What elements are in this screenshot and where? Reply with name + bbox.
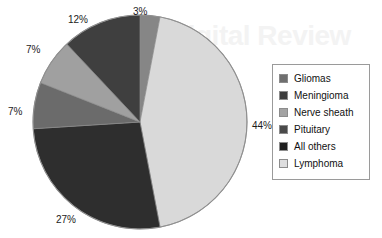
- legend-item[interactable]: Pituitary: [279, 121, 365, 138]
- legend-item[interactable]: Lymphoma: [279, 155, 365, 172]
- legend-item-label: Pituitary: [294, 124, 330, 135]
- pie-slice-lymphoma[interactable]: [140, 17, 247, 227]
- legend-item-label: Lymphoma: [294, 158, 343, 169]
- slice-label-nerve-sheath: 7%: [26, 44, 40, 56]
- legend-swatch-icon: [279, 159, 288, 168]
- legend-swatch-icon: [279, 91, 288, 100]
- pie-chart-screenshot: Digital Review 3% 44% 27% 7% 7% 12% Glio…: [0, 0, 382, 238]
- legend-item[interactable]: Gliomas: [279, 70, 365, 87]
- legend-item[interactable]: Meningioma: [279, 87, 365, 104]
- chart-legend: Gliomas Meningioma Nerve sheath Pituitar…: [272, 64, 370, 180]
- slice-label-lymphoma: 44%: [252, 120, 272, 132]
- legend-swatch-icon: [279, 108, 288, 117]
- legend-swatch-icon: [279, 74, 288, 83]
- pie-slice-meningioma[interactable]: [33, 122, 160, 229]
- legend-item[interactable]: Nerve sheath: [279, 104, 365, 121]
- slice-label-gliomas: 3%: [133, 6, 147, 18]
- legend-item-label: Nerve sheath: [294, 107, 353, 118]
- pie-chart: [32, 14, 248, 230]
- slice-label-meningioma: 27%: [56, 214, 76, 226]
- legend-item-label: Meningioma: [294, 90, 348, 101]
- slice-label-pituitary: 7%: [8, 106, 22, 118]
- pie-chart-svg: [32, 14, 248, 230]
- legend-item[interactable]: All others: [279, 138, 365, 155]
- slice-label-all-others: 12%: [68, 14, 88, 26]
- legend-swatch-icon: [279, 142, 288, 151]
- legend-item-label: Gliomas: [294, 73, 331, 84]
- legend-item-label: All others: [294, 141, 336, 152]
- legend-swatch-icon: [279, 125, 288, 134]
